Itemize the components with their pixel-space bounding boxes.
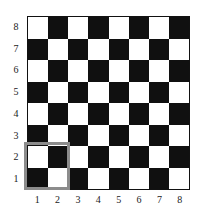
square-2-2	[48, 146, 68, 168]
square-1-1	[28, 168, 48, 190]
file-label-6: 6	[129, 193, 149, 207]
square-4-7	[88, 39, 108, 61]
square-7-1	[149, 168, 169, 190]
file-axis-labels: 1 2 3 4 5 6 7 8	[27, 193, 190, 207]
file-label-1: 1	[27, 193, 47, 207]
board-container	[27, 16, 190, 190]
square-5-6	[109, 60, 129, 82]
file-label-2: 2	[47, 193, 67, 207]
square-6-7	[129, 39, 149, 61]
square-1-8	[28, 17, 48, 39]
square-8-6	[169, 60, 189, 82]
rank-label-1: 1	[8, 168, 24, 190]
square-5-2	[109, 146, 129, 168]
square-2-8	[48, 17, 68, 39]
square-6-6	[129, 60, 149, 82]
square-5-4	[109, 103, 129, 125]
square-8-1	[169, 168, 189, 190]
square-5-5	[109, 82, 129, 104]
rank-label-3: 3	[8, 125, 24, 147]
square-3-4	[68, 103, 88, 125]
square-8-3	[169, 125, 189, 147]
square-5-1	[109, 168, 129, 190]
square-6-4	[129, 103, 149, 125]
square-8-4	[169, 103, 189, 125]
square-2-3	[48, 125, 68, 147]
rank-axis-labels: 8 7 6 5 4 3 2 1	[8, 16, 24, 190]
rank-label-8: 8	[8, 16, 24, 38]
square-3-2	[68, 146, 88, 168]
square-1-7	[28, 39, 48, 61]
square-8-7	[169, 39, 189, 61]
square-6-3	[129, 125, 149, 147]
square-6-1	[129, 168, 149, 190]
square-2-1	[48, 168, 68, 190]
chessboard-figure: 8 7 6 5 4 3 2 1 1 2 3 4 5 6 7 8	[0, 0, 206, 221]
square-1-5	[28, 82, 48, 104]
square-7-6	[149, 60, 169, 82]
square-6-8	[129, 17, 149, 39]
rank-label-2: 2	[8, 147, 24, 169]
square-7-2	[149, 146, 169, 168]
square-3-1	[68, 168, 88, 190]
square-8-8	[169, 17, 189, 39]
square-7-8	[149, 17, 169, 39]
file-label-4: 4	[88, 193, 108, 207]
square-2-7	[48, 39, 68, 61]
square-7-5	[149, 82, 169, 104]
square-4-4	[88, 103, 108, 125]
square-4-8	[88, 17, 108, 39]
square-6-2	[129, 146, 149, 168]
square-3-7	[68, 39, 88, 61]
square-5-3	[109, 125, 129, 147]
rank-label-7: 7	[8, 38, 24, 60]
square-5-7	[109, 39, 129, 61]
square-3-3	[68, 125, 88, 147]
square-1-3	[28, 125, 48, 147]
square-7-4	[149, 103, 169, 125]
square-1-6	[28, 60, 48, 82]
square-2-4	[48, 103, 68, 125]
square-4-5	[88, 82, 108, 104]
square-5-8	[109, 17, 129, 39]
square-4-1	[88, 168, 108, 190]
square-7-7	[149, 39, 169, 61]
square-7-3	[149, 125, 169, 147]
square-1-4	[28, 103, 48, 125]
file-label-8: 8	[170, 193, 190, 207]
square-3-8	[68, 17, 88, 39]
file-label-7: 7	[149, 193, 169, 207]
square-4-3	[88, 125, 108, 147]
square-2-5	[48, 82, 68, 104]
square-4-6	[88, 60, 108, 82]
rank-label-5: 5	[8, 81, 24, 103]
square-2-6	[48, 60, 68, 82]
square-8-2	[169, 146, 189, 168]
square-1-2	[28, 146, 48, 168]
rank-label-4: 4	[8, 103, 24, 125]
rank-label-6: 6	[8, 60, 24, 82]
chessboard-grid	[27, 16, 190, 190]
file-label-5: 5	[109, 193, 129, 207]
file-label-3: 3	[68, 193, 88, 207]
square-8-5	[169, 82, 189, 104]
square-3-6	[68, 60, 88, 82]
square-4-2	[88, 146, 108, 168]
square-6-5	[129, 82, 149, 104]
square-3-5	[68, 82, 88, 104]
